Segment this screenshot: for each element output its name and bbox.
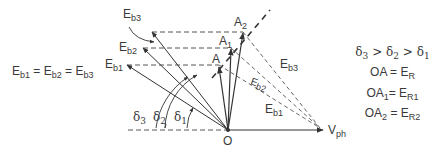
eb3-pointer-arc	[129, 27, 154, 42]
a-label: A	[212, 52, 220, 66]
eb2-dashed-label: Eb2	[248, 76, 268, 95]
oa-relation: OA = ER	[355, 64, 430, 84]
eb3-dashed-label: Eb3	[280, 57, 298, 73]
delta1-arc	[187, 108, 193, 128]
eb3-label: Eb3	[123, 7, 141, 23]
oa1-relation: OA1= ER1	[355, 85, 430, 105]
delta3-label: δ3	[133, 110, 146, 126]
vph-label: Vph	[328, 123, 346, 139]
angle-relation: δ3 > δ2 > δ1	[355, 44, 430, 64]
delta1-label: δ1	[174, 110, 187, 126]
origin-label: O	[223, 134, 232, 148]
eb1-label: Eb1	[105, 57, 123, 73]
delta2-label: δ2	[153, 110, 166, 126]
left-equation: Eb1 = Eb2 = Eb3	[12, 64, 93, 80]
origin-point	[226, 128, 230, 132]
right-notes: δ3 > δ2 > δ1 OA = ER OA1= ER1 OA2 = ER2	[355, 44, 430, 126]
eb2-label: Eb2	[119, 40, 137, 56]
a1-label: A1	[219, 34, 232, 50]
oa2-relation: OA2 = ER2	[355, 105, 430, 125]
a2-label: A2	[234, 15, 247, 31]
eb1-dashed-label: Eb1	[265, 102, 283, 118]
